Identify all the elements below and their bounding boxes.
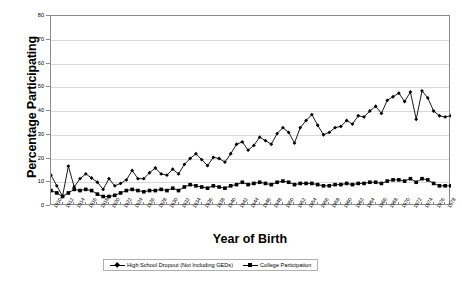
data-point-marker-square <box>96 192 100 196</box>
x-tick-mark <box>62 202 63 205</box>
data-point-marker-square <box>264 182 268 186</box>
data-point-marker-square <box>212 184 216 188</box>
data-point-marker-square <box>72 188 76 192</box>
data-point-marker-square <box>206 186 210 190</box>
data-point-marker-square <box>327 184 331 188</box>
data-point-marker-square <box>293 183 297 187</box>
data-point-marker-diamond <box>66 164 70 168</box>
square-marker-icon <box>243 262 258 269</box>
data-point-marker-square <box>246 183 250 187</box>
x-tick-mark <box>131 202 132 205</box>
data-point-marker-square <box>351 183 355 187</box>
x-tick-mark <box>85 202 86 205</box>
data-point-marker-square <box>403 179 407 183</box>
data-point-marker-square <box>51 189 53 193</box>
x-tick-mark <box>96 202 97 205</box>
data-point-marker-square <box>159 188 163 192</box>
y-tick-label: 40 <box>4 107 44 113</box>
x-tick-mark <box>50 202 51 205</box>
data-point-marker-square <box>194 184 198 188</box>
x-tick-mark <box>247 202 248 205</box>
data-point-marker-square <box>200 185 204 189</box>
x-axis-title: Year of Birth <box>50 232 450 246</box>
data-point-marker-square <box>339 183 343 187</box>
data-point-marker-square <box>269 183 273 187</box>
x-tick-mark <box>444 202 445 205</box>
data-point-marker-square <box>84 188 88 192</box>
x-tick-mark <box>178 202 179 205</box>
series-college <box>51 177 451 198</box>
x-tick-mark <box>351 202 352 205</box>
x-tick-mark <box>409 202 410 205</box>
data-point-marker-square <box>217 185 221 189</box>
data-point-marker-square <box>287 180 291 184</box>
x-tick-mark <box>236 202 237 205</box>
y-tick-label: 80 <box>4 12 44 18</box>
data-point-marker-square <box>333 183 337 187</box>
x-tick-mark <box>386 202 387 205</box>
legend-label-college: College Participation <box>260 262 311 268</box>
x-axis-tick-labels: 1910191219141916191819201922192419261928… <box>50 206 450 230</box>
series-dropout <box>51 89 451 198</box>
x-tick-mark <box>212 202 213 205</box>
x-tick-mark <box>224 202 225 205</box>
data-point-marker-square <box>298 182 302 186</box>
y-tick-label: 50 <box>4 83 44 89</box>
data-point-marker-square <box>414 180 418 184</box>
x-tick-mark <box>293 202 294 205</box>
data-point-marker-square <box>78 189 82 193</box>
data-point-marker-square <box>55 191 59 195</box>
data-point-marker-square <box>136 189 140 193</box>
chart-legend: High School Dropout (Not Including GEDs)… <box>103 259 318 271</box>
y-axis-tick-labels: 01020304050607080 <box>0 0 50 220</box>
series-lines <box>51 16 451 206</box>
data-point-marker-square <box>420 177 424 181</box>
data-point-marker-square <box>171 186 175 190</box>
data-point-marker-square <box>385 179 389 183</box>
data-point-marker-square <box>368 180 372 184</box>
data-point-marker-diamond <box>55 184 59 188</box>
x-tick-mark <box>305 202 306 205</box>
x-tick-mark <box>143 202 144 205</box>
x-tick-mark <box>421 202 422 205</box>
x-tick-mark <box>398 202 399 205</box>
legend-entry-college: College Participation <box>243 262 311 269</box>
data-point-marker-square <box>374 180 378 184</box>
data-point-marker-square <box>316 183 320 187</box>
data-point-marker-square <box>391 178 395 182</box>
data-point-marker-square <box>223 186 227 190</box>
x-tick-mark <box>189 202 190 205</box>
data-point-marker-square <box>67 191 71 195</box>
data-point-marker-square <box>345 182 349 186</box>
data-point-marker-square <box>432 182 436 186</box>
data-point-marker-square <box>148 189 152 193</box>
x-tick-mark <box>201 202 202 205</box>
x-tick-mark <box>270 202 271 205</box>
data-point-marker-square <box>252 182 256 186</box>
x-tick-mark <box>363 202 364 205</box>
x-tick-mark <box>166 202 167 205</box>
data-point-marker-diamond <box>293 141 297 145</box>
data-point-marker-square <box>443 184 447 188</box>
y-tick-label: 60 <box>4 60 44 66</box>
x-tick-mark <box>73 202 74 205</box>
data-point-marker-square <box>380 182 384 186</box>
x-tick-mark <box>433 202 434 205</box>
chart-container: Percentage Participating 010203040506070… <box>0 0 462 288</box>
y-tick-label: 10 <box>4 178 44 184</box>
data-point-marker-diamond <box>443 115 447 119</box>
x-tick-mark <box>108 202 109 205</box>
data-point-marker-square <box>362 182 366 186</box>
data-point-marker-square <box>154 189 158 193</box>
data-point-marker-square <box>241 180 245 184</box>
data-point-marker-diamond <box>449 114 451 118</box>
x-tick-mark <box>375 202 376 205</box>
x-tick-mark <box>259 202 260 205</box>
data-point-marker-square <box>177 189 181 193</box>
x-tick-mark <box>340 202 341 205</box>
x-tick-mark <box>282 202 283 205</box>
data-point-marker-square <box>188 183 192 187</box>
data-point-marker-square <box>322 184 326 188</box>
x-tick-mark <box>317 202 318 205</box>
data-point-marker-square <box>229 184 233 188</box>
